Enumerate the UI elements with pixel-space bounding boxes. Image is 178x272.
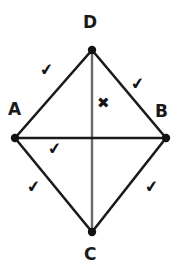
check-mark-side-cb: ✔ <box>144 178 160 196</box>
check-mark-side-ac: ✔ <box>26 178 42 196</box>
check-mark-side-db: ✔ <box>130 75 146 93</box>
side-AD <box>15 50 92 138</box>
vertex-dot-A <box>11 134 19 142</box>
vertex-label-A: A <box>8 101 21 118</box>
geometry-diagram: D A B C ✔ ✔ ✔ ✔ ✔ ✖ <box>0 0 178 272</box>
cross-mark-region-d: ✖ <box>97 96 110 111</box>
vertex-label-B: B <box>155 103 168 120</box>
vertex-label-C: C <box>84 246 96 263</box>
check-mark-angle-a: ✔ <box>47 140 63 158</box>
check-mark-side-ad: ✔ <box>39 61 55 79</box>
vertex-dot-C <box>88 228 96 236</box>
vertex-dots <box>11 46 170 236</box>
vertex-dot-B <box>162 134 170 142</box>
vertex-dot-D <box>88 46 96 54</box>
vertex-label-D: D <box>83 14 97 31</box>
figure-canvas <box>0 0 178 272</box>
